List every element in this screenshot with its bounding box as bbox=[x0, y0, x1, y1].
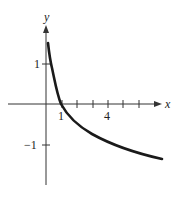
x-tick-label-1: 1 bbox=[58, 109, 64, 123]
y-axis-arrow-icon bbox=[43, 25, 49, 33]
x-tick-label-4: 4 bbox=[104, 109, 110, 123]
y-axis-label: y bbox=[43, 10, 50, 24]
x-axis-label: x bbox=[164, 97, 171, 111]
plot: y x 1 4 1 −1 bbox=[0, 0, 181, 201]
y-tick-label-1: 1 bbox=[34, 57, 40, 71]
curve-line bbox=[48, 43, 162, 159]
y-tick-label-neg1: −1 bbox=[24, 138, 37, 152]
x-axis-arrow-icon bbox=[154, 101, 162, 107]
